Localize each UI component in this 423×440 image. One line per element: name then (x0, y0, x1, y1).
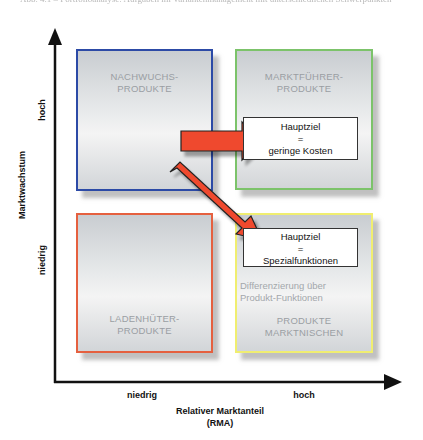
y-axis-low-label: niedrig (37, 230, 47, 290)
x-axis-title-line2: (RMA) (150, 418, 290, 428)
goal-line1: Hauptziel (244, 121, 357, 133)
x-axis-arrowhead-icon (384, 374, 402, 390)
goal-line2: = (244, 133, 357, 145)
goal-line1: Hauptziel (244, 231, 357, 243)
goal-line3: geringe Kosten (244, 145, 357, 157)
y-axis-title: Marktwachstum (17, 145, 27, 225)
y-axis-high-label: hoch (37, 80, 47, 140)
goal-line2: = (244, 243, 357, 255)
x-axis-title-line1: Relativer Marktanteil (150, 406, 290, 416)
goal-box-spezialfunktionen: Hauptziel = Spezialfunktionen (243, 228, 358, 267)
x-axis-high-label: hoch (274, 390, 334, 400)
goal-line3: Spezialfunktionen (244, 255, 357, 267)
x-axis-low-label: niedrig (112, 390, 172, 400)
axes-and-arrows (0, 0, 423, 440)
y-axis-arrowhead-icon (48, 28, 62, 45)
goal-box-geringe-kosten: Hauptziel = geringe Kosten (243, 117, 358, 160)
